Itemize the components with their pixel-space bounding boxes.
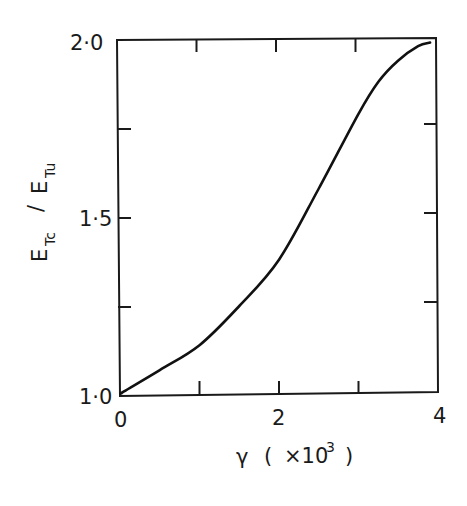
y-axis-sub1: Tc	[42, 232, 58, 247]
x-axis-label: γ ( ×10 3 )	[236, 439, 353, 469]
y-axis-label: E Tc / E Tu	[24, 163, 58, 262]
y-axis-sub2: Tu	[42, 163, 58, 179]
y-axis-slash: /	[24, 204, 48, 212]
x-axis-close-paren: )	[345, 444, 353, 468]
x-tick-label-0: 0	[114, 408, 127, 432]
x-axis-exponent: 3	[326, 439, 335, 455]
x-axis-symbol: γ	[236, 445, 248, 469]
y-axis-E1: E	[28, 249, 52, 262]
x-tick-label-4: 4	[433, 404, 446, 428]
y-tick-label-1.0: 1·0	[79, 385, 112, 409]
x-axis-multiplier: ×10	[284, 444, 328, 468]
x-axis-open-paren: (	[264, 444, 272, 468]
chart: 2·0 1·5 1·0 0 2 4 γ ( ×10 3 ) E Tc / E T…	[0, 0, 467, 506]
y-axis-E2: E	[28, 181, 52, 194]
x-tick-label-2: 2	[272, 406, 285, 430]
data-curve	[120, 43, 430, 394]
axis-ticks	[118, 39, 437, 394]
y-tick-label-2.0: 2·0	[70, 31, 103, 55]
y-tick-label-1.5: 1·5	[79, 207, 112, 231]
plot-frame	[117, 38, 438, 396]
